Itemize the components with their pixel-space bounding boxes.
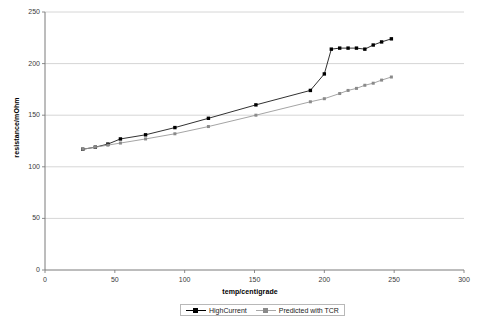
data-point-marker — [346, 46, 349, 49]
x-tick-label: 200 — [309, 276, 339, 283]
data-point-marker — [363, 84, 366, 87]
y-tick-label: 150 — [14, 111, 40, 118]
data-point-marker — [347, 89, 350, 92]
legend-swatch-highcurrent — [186, 307, 206, 314]
data-point-marker — [173, 126, 176, 129]
x-tick-label: 300 — [449, 276, 479, 283]
data-point-marker — [119, 142, 122, 145]
x-axis-title: temp/centigrade — [0, 288, 500, 295]
data-point-marker — [94, 146, 97, 149]
data-point-marker — [390, 37, 393, 40]
series-line-0 — [83, 39, 392, 149]
legend-label-predicted-with-tcr: Predicted with TCR — [279, 307, 339, 314]
data-point-marker — [372, 43, 375, 46]
y-axis-title: resistance/mOhm — [13, 88, 20, 168]
y-tick-label: 250 — [14, 8, 40, 15]
data-point-marker — [144, 133, 147, 136]
y-tick-label: 50 — [14, 214, 40, 221]
x-tick-label: 50 — [100, 276, 130, 283]
data-point-marker — [372, 82, 375, 85]
legend-item-highcurrent: HighCurrent — [186, 307, 247, 314]
x-tick-label: 150 — [240, 276, 270, 283]
chart-legend: HighCurrent Predicted with TCR — [180, 304, 345, 316]
legend-item-predicted-with-tcr: Predicted with TCR — [256, 307, 339, 314]
data-point-marker — [119, 137, 122, 140]
legend-swatch-predicted-with-tcr — [256, 307, 276, 314]
data-point-marker — [363, 47, 366, 50]
data-point-marker — [309, 89, 312, 92]
data-point-marker — [309, 100, 312, 103]
data-point-marker — [173, 132, 176, 135]
y-tick-label: 0 — [14, 266, 40, 273]
data-point-marker — [254, 103, 257, 106]
data-point-marker — [338, 92, 341, 95]
data-point-marker — [323, 72, 326, 75]
data-point-marker — [380, 79, 383, 82]
data-point-marker — [355, 87, 358, 90]
x-tick-label: 250 — [379, 276, 409, 283]
x-tick-label: 100 — [170, 276, 200, 283]
data-point-marker — [81, 148, 84, 151]
data-point-marker — [355, 46, 358, 49]
data-point-marker — [380, 40, 383, 43]
data-point-marker — [207, 117, 210, 120]
data-point-marker — [254, 114, 257, 117]
y-tick-label: 100 — [14, 163, 40, 170]
series-line-1 — [83, 77, 392, 149]
data-point-marker — [106, 144, 109, 147]
x-tick-label: 0 — [30, 276, 60, 283]
data-point-marker — [207, 125, 210, 128]
chart-container: resistance/mOhm temp/centigrade 05010015… — [0, 0, 500, 330]
legend-label-highcurrent: HighCurrent — [209, 307, 247, 314]
data-point-marker — [390, 76, 393, 79]
y-tick-label: 200 — [14, 60, 40, 67]
data-point-marker — [330, 47, 333, 50]
data-point-marker — [144, 137, 147, 140]
data-point-marker — [323, 97, 326, 100]
data-point-marker — [338, 46, 341, 49]
